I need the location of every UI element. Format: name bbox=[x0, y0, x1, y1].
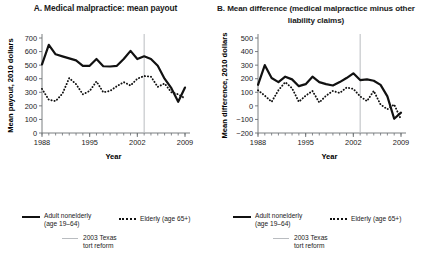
y-axis-title: Mean difference, 2010 dollars bbox=[220, 33, 229, 139]
figure-container: A. Medical malpractice: mean payout 0100… bbox=[0, 0, 421, 257]
legend-label-elderly: Elderly (age 65+) bbox=[140, 215, 190, 223]
y-tick-label: 100 bbox=[241, 88, 253, 97]
legend-item-adult-nonelderly-b: Adult nonelderly (age 19–64) bbox=[233, 212, 302, 228]
x-tick-label: 1988 bbox=[34, 138, 50, 147]
y-tick-label: 200 bbox=[241, 74, 253, 83]
y-tick-label: 500 bbox=[25, 61, 37, 70]
x-tick-label: 2009 bbox=[177, 138, 193, 147]
legend-panel-a: Adult nonelderly (age 19–64) Elderly (ag… bbox=[0, 196, 211, 254]
legend-item-adult-nonelderly: Adult nonelderly (age 19–64) bbox=[22, 212, 91, 228]
panel-b-svg: −200−10001002003004005001988199520022009… bbox=[211, 30, 421, 162]
series-elderly bbox=[42, 76, 185, 101]
y-tick-label: 600 bbox=[25, 47, 37, 56]
y-tick-label: 400 bbox=[241, 47, 253, 56]
legend-item-elderly-b: Elderly (age 65+) bbox=[330, 215, 401, 223]
legend-label-adult-nonelderly: Adult nonelderly (age 19–64) bbox=[44, 212, 91, 228]
y-tick-label: 300 bbox=[241, 61, 253, 70]
panel-b: B. Mean difference (medical malpractice … bbox=[211, 0, 421, 190]
vertical-line-swatch-icon bbox=[273, 238, 289, 239]
y-tick-label: 0 bbox=[33, 129, 37, 138]
y-tick-label: 300 bbox=[25, 88, 37, 97]
panel-a: A. Medical malpractice: mean payout 0100… bbox=[0, 0, 211, 190]
legend-label-tort-reform: 2003 Texas tort reform bbox=[83, 234, 117, 250]
panel-b-title: B. Mean difference (medical malpractice … bbox=[211, 3, 421, 26]
legend-item-elderly: Elderly (age 65+) bbox=[119, 215, 190, 223]
y-tick-label: −200 bbox=[236, 129, 253, 138]
x-tick-label: 2002 bbox=[345, 138, 361, 147]
y-axis-title: Mean payout, 2010 dollars bbox=[6, 38, 15, 133]
dotted-line-swatch-icon bbox=[330, 218, 347, 220]
legend-panel-b: Adult nonelderly (age 19–64) Elderly (ag… bbox=[211, 196, 421, 254]
x-tick-label: 2002 bbox=[129, 138, 145, 147]
y-tick-label: 400 bbox=[25, 74, 37, 83]
x-axis-title: Year bbox=[321, 152, 337, 161]
panel-a-title: A. Medical malpractice: mean payout bbox=[0, 3, 211, 15]
y-tick-label: 0 bbox=[249, 102, 253, 111]
legend-label-adult-nonelderly-b: Adult nonelderly (age 19–64) bbox=[255, 212, 302, 228]
vertical-line-swatch-icon bbox=[62, 238, 78, 239]
series-elderly bbox=[258, 82, 401, 119]
x-tick-label: 1995 bbox=[297, 138, 313, 147]
legend-label-tort-reform-b: 2003 Texas tort reform bbox=[294, 234, 328, 250]
panel-b-plot: −200−10001002003004005001988199520022009… bbox=[211, 30, 421, 162]
panel-a-svg: 01002003004005006007001988199520022009Me… bbox=[0, 30, 211, 162]
y-tick-label: −100 bbox=[236, 115, 253, 124]
x-tick-label: 2009 bbox=[393, 138, 409, 147]
solid-line-swatch-icon bbox=[233, 216, 251, 218]
legend-item-tort-reform: 2003 Texas tort reform bbox=[62, 234, 117, 250]
solid-line-swatch-icon bbox=[22, 216, 40, 218]
y-tick-label: 100 bbox=[25, 115, 37, 124]
y-tick-label: 500 bbox=[241, 34, 253, 43]
y-tick-label: 700 bbox=[25, 34, 37, 43]
legend-label-elderly-b: Elderly (age 65+) bbox=[351, 215, 401, 223]
x-axis-title: Year bbox=[105, 152, 121, 161]
legend-item-tort-reform-b: 2003 Texas tort reform bbox=[273, 234, 328, 250]
dotted-line-swatch-icon bbox=[119, 218, 136, 220]
panel-a-plot: 01002003004005006007001988199520022009Me… bbox=[0, 30, 211, 162]
x-tick-label: 1988 bbox=[250, 138, 266, 147]
series-adult-nonelderly bbox=[258, 65, 401, 119]
y-tick-label: 200 bbox=[25, 102, 37, 111]
x-tick-label: 1995 bbox=[81, 138, 97, 147]
